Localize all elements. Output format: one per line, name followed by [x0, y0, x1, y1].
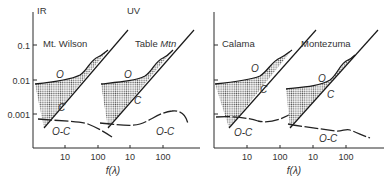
site-label: Table Mtn: [135, 38, 176, 49]
uv-band-label: UV: [127, 5, 141, 16]
c-label: C: [134, 95, 142, 106]
x-axis-label: f(λ): [106, 165, 120, 176]
shaded-region: [35, 50, 108, 128]
shaded-region: [101, 50, 173, 128]
x-tick-label: 10: [60, 152, 70, 162]
c-label: C: [327, 89, 335, 100]
site-label: Mt. Wilson: [43, 38, 87, 49]
o-c-label: O-C: [156, 126, 175, 137]
y-tick-label: 0.01: [12, 76, 30, 86]
x-tick-label: 100: [338, 152, 353, 162]
o-label: O: [318, 73, 326, 84]
o-c-label: O-C: [319, 133, 338, 144]
c-label: C: [58, 102, 66, 113]
o-label: O: [124, 69, 132, 80]
site-label-italic: Mtn: [160, 38, 176, 49]
site-label: Montezuma: [301, 38, 351, 49]
ir-band-label: IR: [37, 5, 47, 16]
o-label: O: [56, 69, 64, 80]
y-tick-label: 0.1: [17, 41, 30, 51]
x-tick-label: 10: [308, 152, 318, 162]
figure-canvas: 0.1 0.01 0.001 10 100 10 100 f(λ) IR UV …: [0, 0, 386, 181]
x-axis-label: f(λ): [287, 165, 301, 176]
x-tick-label: 100: [272, 152, 287, 162]
site-label-prefix: Table: [135, 38, 160, 49]
x-tick-label: 10: [125, 152, 135, 162]
o-label: O: [251, 63, 259, 74]
y-tick-label: 0.001: [7, 110, 30, 120]
x-tick-label: 100: [155, 152, 170, 162]
o-c-label: O-C: [52, 126, 71, 137]
x-tick-label: 100: [90, 152, 105, 162]
o-c-label: O-C: [234, 127, 253, 138]
shaded-region: [286, 55, 355, 128]
panel-montezuma: Montezuma O C O-C: [286, 30, 378, 144]
x-tick-label: 10: [242, 152, 252, 162]
site-label: Calama: [222, 38, 255, 49]
c-label: C: [260, 84, 268, 95]
